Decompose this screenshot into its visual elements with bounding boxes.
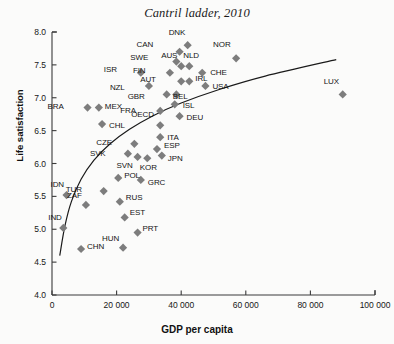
data-point-marker bbox=[59, 224, 67, 232]
data-point-marker bbox=[116, 198, 124, 206]
data-point-marker bbox=[121, 213, 129, 221]
x-axis-ticks bbox=[52, 291, 375, 296]
axes-frame bbox=[52, 32, 375, 295]
data-point-marker bbox=[143, 154, 151, 162]
data-point-marker bbox=[185, 62, 193, 70]
data-point-marker bbox=[100, 187, 108, 195]
data-point-marker bbox=[172, 90, 180, 98]
chart-figure: Cantril ladder, 2010 Life satisfaction G… bbox=[0, 0, 394, 344]
data-point-marker bbox=[95, 104, 103, 112]
data-point-marker bbox=[137, 176, 145, 184]
data-point-marker bbox=[184, 41, 192, 49]
data-point-marker bbox=[145, 82, 153, 90]
data-point-marker bbox=[119, 244, 127, 252]
data-point-marker bbox=[175, 112, 183, 120]
data-point-marker bbox=[175, 48, 183, 56]
data-point-marker bbox=[83, 104, 91, 112]
data-point-marker bbox=[185, 77, 193, 85]
data-point-marker bbox=[130, 140, 138, 148]
y-axis-ticks bbox=[52, 32, 57, 295]
data-point-marker bbox=[339, 90, 347, 98]
data-point-marker bbox=[133, 228, 141, 236]
data-point-marker bbox=[201, 82, 209, 90]
data-point-marker bbox=[98, 120, 106, 128]
data-point-marker bbox=[133, 153, 141, 161]
data-point-marker bbox=[124, 150, 132, 158]
plot-area bbox=[0, 0, 394, 344]
data-point-marker bbox=[232, 54, 240, 62]
data-point-marker bbox=[177, 77, 185, 85]
trendline bbox=[60, 60, 336, 256]
data-markers bbox=[59, 41, 347, 253]
data-point-marker bbox=[166, 69, 174, 77]
data-point-marker bbox=[62, 191, 70, 199]
data-point-marker bbox=[198, 69, 206, 77]
data-point-marker bbox=[137, 69, 145, 77]
data-point-marker bbox=[114, 174, 122, 182]
data-point-marker bbox=[158, 152, 166, 160]
data-point-marker bbox=[156, 121, 164, 129]
data-point-marker bbox=[156, 133, 164, 141]
data-point-marker bbox=[77, 245, 85, 253]
data-point-marker bbox=[153, 145, 161, 153]
data-point-marker bbox=[82, 201, 90, 209]
data-point-marker bbox=[163, 90, 171, 98]
